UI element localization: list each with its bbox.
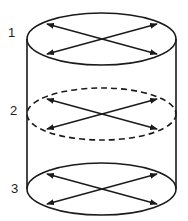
cylinder-diagram — [0, 0, 188, 221]
section-label-2: 2 — [10, 104, 17, 117]
section-label-3: 3 — [11, 182, 18, 195]
section-label-1: 1 — [8, 26, 15, 39]
